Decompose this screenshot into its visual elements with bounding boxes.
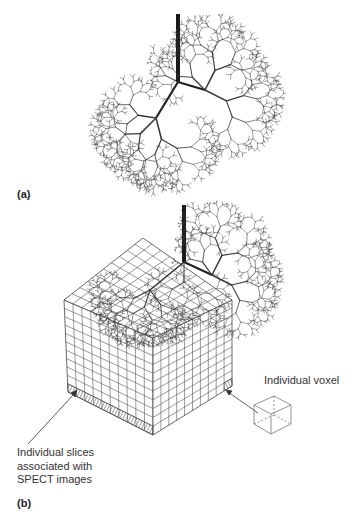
voxel-arrow: [226, 390, 258, 413]
voxel-annotation: Individual voxel: [264, 374, 339, 388]
slice-arrow: [28, 390, 77, 444]
airway-tree-a: [88, 14, 285, 196]
panel-label-b: (b): [17, 497, 31, 509]
slices-annotation: Individual slices associated with SPECT …: [17, 446, 94, 487]
slices-annotation-line3: SPECT images: [17, 473, 94, 487]
figure-canvas: [0, 0, 351, 514]
panel-label-a: (a): [17, 188, 30, 200]
individual-voxel-icon: [254, 396, 291, 434]
slices-annotation-line2: associated with: [17, 460, 94, 474]
slices-annotation-line1: Individual slices: [17, 446, 94, 460]
